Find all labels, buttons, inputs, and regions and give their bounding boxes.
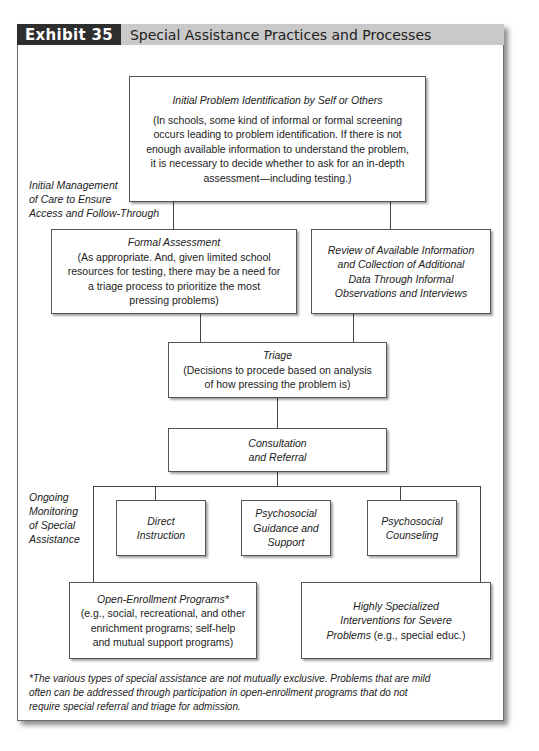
footnote-line: *The various types of special assistance… xyxy=(29,672,499,686)
box-text: Interventions for Severe xyxy=(340,613,451,628)
box-text: (e.g., social, recreational, and other xyxy=(81,606,246,621)
box-text: assessment—including testing.) xyxy=(203,171,351,186)
box-text: Guidance and xyxy=(253,521,318,536)
label-line: Ongoing xyxy=(29,490,80,504)
box-text: enrichment programs; self-help xyxy=(91,621,236,636)
box-title: Formal Assessment xyxy=(128,235,220,250)
footnote-line: require special referral and triage for … xyxy=(29,700,499,714)
exhibit-header: Exhibit 35 Special Assistance Practices … xyxy=(17,24,504,45)
connector xyxy=(400,486,401,500)
box-text: and Referral xyxy=(249,450,307,465)
box-text: Counseling xyxy=(386,528,439,543)
box-text: Support xyxy=(268,535,305,550)
connector xyxy=(277,397,278,428)
initial-identification-box: Initial Problem Identification by Self o… xyxy=(129,76,426,202)
formal-assessment-box: Formal Assessment (As appropriate. And, … xyxy=(51,229,297,314)
box-text: enough available information to understa… xyxy=(146,142,409,157)
box-text: (Decisions to procede based on analysis xyxy=(183,363,372,378)
box-text-italic: Problems xyxy=(327,629,371,641)
box-text: Observations and Interviews xyxy=(335,286,467,301)
exhibit-label: Exhibit 35 xyxy=(17,24,121,45)
connector xyxy=(480,486,481,582)
box-text: Psychosocial xyxy=(381,514,442,529)
label-line: Monitoring xyxy=(29,504,80,518)
box-text: and mutual support programs) xyxy=(93,635,234,650)
box-text: a triage process to prioritize the most xyxy=(88,279,260,294)
connector xyxy=(155,486,156,500)
label-line: Access and Follow-Through xyxy=(29,206,159,220)
open-enrollment-box: Open-Enrollment Programs* (e.g., social,… xyxy=(69,582,257,659)
box-title: Triage xyxy=(263,348,292,363)
box-text: Instruction xyxy=(137,528,185,543)
guidance-support-box: Psychosocial Guidance and Support xyxy=(241,500,331,556)
box-title: Initial Problem Identification by Self o… xyxy=(172,93,382,108)
box-text: and Collection of Additional xyxy=(338,257,465,272)
ongoing-monitoring-label: Ongoing Monitoring of Special Assistance xyxy=(29,490,80,546)
box-text: Review of Available Information xyxy=(328,243,475,258)
counseling-box: Psychosocial Counseling xyxy=(367,500,457,556)
box-text: Highly Specialized xyxy=(353,599,439,614)
connector xyxy=(93,486,481,487)
connector xyxy=(353,313,354,342)
label-line: of Special xyxy=(29,518,80,532)
connector xyxy=(277,471,278,486)
consultation-referral-box: Consultation and Referral xyxy=(168,428,387,472)
box-text: Direct xyxy=(147,514,174,529)
footnote: *The various types of special assistance… xyxy=(29,672,499,714)
specialized-interventions-box: Highly Specialized Interventions for Sev… xyxy=(301,582,491,659)
box-title: Open-Enrollment Programs* xyxy=(97,592,229,607)
direct-instruction-box: Direct Instruction xyxy=(116,500,206,556)
box-text: Psychosocial xyxy=(255,506,316,521)
review-information-box: Review of Available Information and Coll… xyxy=(311,229,491,314)
box-text: it is necessary to decide whether to ask… xyxy=(151,156,405,171)
box-text: (As appropriate. And, given limited scho… xyxy=(77,250,270,265)
exhibit-title: Special Assistance Practices and Process… xyxy=(121,24,431,45)
box-text: Consultation xyxy=(248,436,306,451)
box-text: resources for testing, there may be a ne… xyxy=(68,264,280,279)
label-line: Assistance xyxy=(29,532,80,546)
box-text: pressing problems) xyxy=(129,293,218,308)
box-text: (In schools, some kind of informal or fo… xyxy=(153,113,402,128)
connector xyxy=(173,201,174,229)
box-text-plain: (e.g., special educ.) xyxy=(371,629,466,641)
connector xyxy=(390,201,391,229)
connector xyxy=(200,313,201,342)
connector xyxy=(93,486,94,582)
box-text: Data Through Informal xyxy=(348,272,453,287)
triage-box: Triage (Decisions to procede based on an… xyxy=(168,342,387,398)
footnote-line: often can be addressed through participa… xyxy=(29,686,499,700)
box-text: occurs leading to problem identification… xyxy=(153,127,401,142)
box-text: of how pressing the problem is) xyxy=(205,377,351,392)
box-text: Problems (e.g., special educ.) xyxy=(327,628,466,643)
